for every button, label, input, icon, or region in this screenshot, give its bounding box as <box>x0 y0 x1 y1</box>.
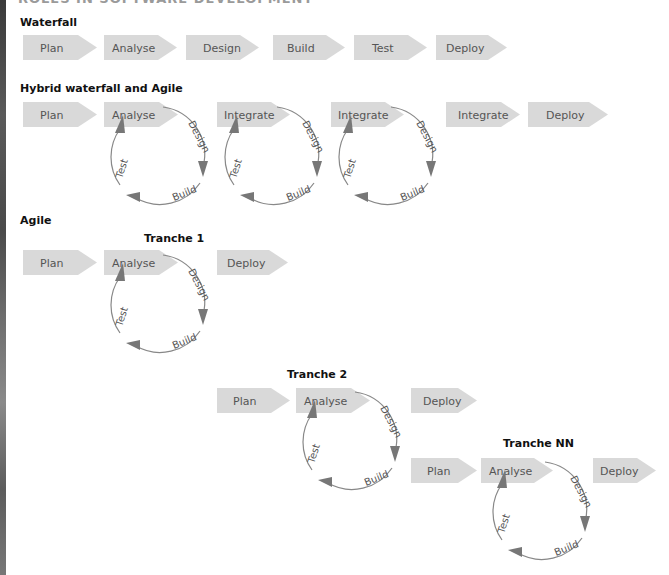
hybrid-row: Plan Analyse Integrate Integrate Integra… <box>23 102 608 204</box>
chevron-plan: Plan <box>217 388 290 413</box>
chevron-plan: Plan <box>23 35 97 60</box>
svg-text:Test: Test <box>341 157 358 180</box>
svg-text:Analyse: Analyse <box>112 109 156 122</box>
chevron-deploy: Deploy <box>528 102 608 127</box>
svg-text:Test: Test <box>113 305 130 328</box>
chevron-integrate-1: Integrate <box>217 102 290 127</box>
section-title-hybrid: Hybrid waterfall and Agile <box>20 82 183 95</box>
svg-text:Test: Test <box>305 442 322 465</box>
chevron-analyse: Analyse <box>296 388 370 413</box>
svg-text:Plan: Plan <box>40 109 63 122</box>
tranche-title: Tranche 2 <box>287 368 347 381</box>
svg-text:Design: Design <box>300 119 326 155</box>
svg-text:Design: Design <box>414 119 440 155</box>
section-title-agile: Agile <box>20 214 51 227</box>
svg-text:Design: Design <box>186 119 212 155</box>
svg-text:Integrate: Integrate <box>338 109 389 122</box>
svg-text:Plan: Plan <box>40 42 63 55</box>
svg-text:Build: Build <box>287 42 315 55</box>
svg-text:Integrate: Integrate <box>458 109 509 122</box>
svg-text:Deploy: Deploy <box>446 42 485 55</box>
chevron-analyse: Analyse <box>481 458 553 483</box>
svg-text:Test: Test <box>495 512 512 535</box>
svg-text:Analyse: Analyse <box>489 465 533 478</box>
chevron-analyse: Analyse <box>104 250 178 275</box>
methodology-diagram: Waterfall Plan Analyse Design Build Test… <box>0 0 669 575</box>
svg-text:Test: Test <box>371 42 394 55</box>
tranche-title: Tranche 1 <box>144 232 204 245</box>
svg-text:Build: Build <box>399 183 426 203</box>
tranche-1: Tranche 1 Plan Analyse Deploy Design Bui… <box>23 232 288 352</box>
svg-text:Build: Build <box>171 183 198 203</box>
svg-text:Build: Build <box>171 331 198 351</box>
svg-text:Design: Design <box>203 42 241 55</box>
svg-text:Deploy: Deploy <box>600 465 639 478</box>
chevron-deploy: Deploy <box>411 388 477 413</box>
svg-text:Build: Build <box>553 538 580 558</box>
chevron-integrate-2: Integrate <box>331 102 404 127</box>
svg-text:Build: Build <box>285 183 312 203</box>
svg-text:Plan: Plan <box>40 257 63 270</box>
svg-text:Plan: Plan <box>427 465 450 478</box>
section-title-waterfall: Waterfall <box>20 16 77 29</box>
chevron-deploy: Deploy <box>436 35 507 60</box>
chevron-plan: Plan <box>23 102 97 127</box>
svg-text:Design: Design <box>568 474 594 510</box>
svg-text:Build: Build <box>363 468 390 488</box>
tranche-title: Tranche NN <box>503 437 574 450</box>
tranche-nn: Tranche NN Plan Analyse Deploy Design Bu… <box>411 437 656 559</box>
svg-text:Analyse: Analyse <box>304 395 348 408</box>
svg-text:Design: Design <box>378 404 404 440</box>
chevron-analyse: Analyse <box>104 35 177 60</box>
chevron-analyse: Analyse <box>104 102 178 127</box>
waterfall-row: Plan Analyse Design Build Test Deploy <box>23 35 507 60</box>
chevron-plan: Plan <box>411 458 477 483</box>
chevron-build: Build <box>273 35 345 60</box>
svg-text:Deploy: Deploy <box>546 109 585 122</box>
svg-text:Plan: Plan <box>233 395 256 408</box>
svg-text:Integrate: Integrate <box>224 109 275 122</box>
chevron-test: Test <box>354 35 427 60</box>
chevron-deploy: Deploy <box>593 458 656 483</box>
chevron-integrate-3: Integrate <box>446 102 520 127</box>
svg-text:Analyse: Analyse <box>112 257 156 270</box>
chevron-plan: Plan <box>23 250 97 275</box>
svg-text:Analyse: Analyse <box>112 42 156 55</box>
svg-text:Test: Test <box>113 157 130 180</box>
chevron-deploy: Deploy <box>217 250 288 275</box>
svg-text:Test: Test <box>227 157 244 180</box>
svg-text:Design: Design <box>186 267 212 303</box>
chevron-design: Design <box>186 35 259 60</box>
svg-text:Deploy: Deploy <box>227 257 266 270</box>
svg-text:Deploy: Deploy <box>423 395 462 408</box>
